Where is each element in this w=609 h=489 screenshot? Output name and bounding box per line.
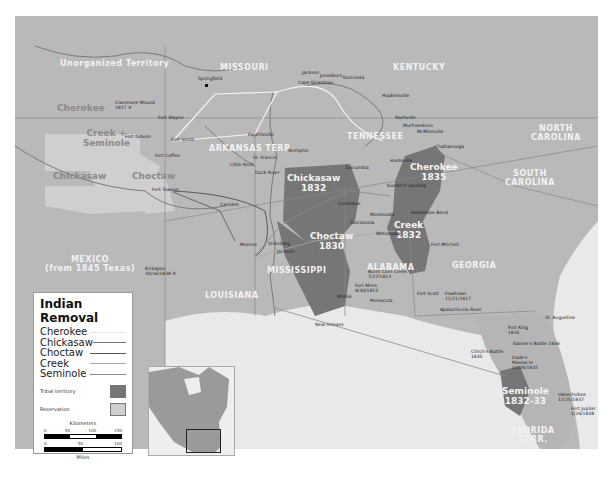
place-fort-gibson: Fort Gibson — [125, 135, 151, 140]
label-mississippi: MISSISSIPPI — [267, 266, 326, 275]
town-marker — [205, 84, 208, 87]
place-nashville: Nashville — [395, 116, 416, 121]
place-little-rock: Little Rock — [230, 163, 254, 168]
label-reservation-choctaw: Choctaw — [132, 171, 175, 181]
place-jackson: Jackson — [302, 71, 319, 76]
place-huntsville: Huntsville — [390, 159, 412, 164]
scale-bar-km: Kilometers 050100150 050100 Miles — [40, 420, 126, 460]
place-apalachicola-river: Apalachicola River — [440, 308, 482, 313]
place-st-francis: St. Francis — [253, 156, 276, 161]
place-fort-smith-ar: Fort Smith — [171, 138, 194, 143]
label-unorganized-territory: Unorganized Territory — [60, 59, 169, 68]
label-territory-seminole: Seminole1832-33 — [502, 386, 549, 407]
label-reservation-chickasaw: Chickasaw — [53, 171, 106, 181]
label-reservation-creek-seminole: Creek +Seminole — [83, 128, 130, 149]
label-kentucky: KENTUCKY — [393, 63, 445, 72]
place-fort-mims: Fort Mims8/30/1813 — [355, 284, 378, 294]
legend: Indian Removal Cherokee Chickasaw Chocta… — [33, 292, 133, 454]
place-fort-scott: Fort Scott — [417, 292, 439, 297]
legend-route-cherokee: Cherokee — [40, 327, 126, 338]
place-cape-girardeau: Cape Girardeau — [298, 81, 333, 86]
locator-extent-box — [186, 429, 221, 453]
place-new-orleans: New Orleans — [315, 323, 344, 328]
place-okeechobee: Okeechobee12/25/1837 — [558, 393, 586, 403]
label-reservation-cherokee: Cherokee — [57, 103, 105, 113]
label-mexico: MEXICO(from 1845 Texas) — [45, 255, 135, 273]
place-fort-coffee: Fort Coffee — [155, 154, 180, 159]
label-florida-terr: FLORIDATERR. — [512, 426, 555, 444]
label-georgia: GEORGIA — [452, 261, 496, 270]
place-clinchs-battle: Clinch's Battle1835 — [471, 350, 503, 360]
place-chattanooga: Chattanooga — [435, 145, 464, 150]
label-south-carolina: SOUTHCAROLINA — [505, 169, 555, 187]
place-springfield: Springfield — [198, 77, 222, 82]
label-tennessee: TENNESSEE — [347, 132, 403, 141]
place-dades-massacre: Dade'sMassacre12/28/1835 — [512, 356, 538, 371]
legend-title: Indian Removal — [40, 297, 126, 325]
place-tuscaloosa: Tuscaloosa — [350, 221, 374, 226]
legend-route-seminole: Seminole — [40, 369, 126, 380]
place-st-augustine: St. Augustine — [545, 316, 575, 321]
place-jonesboro: Jonesboro — [320, 74, 342, 79]
place-gunters-landing: Gunter's Landing — [387, 184, 426, 189]
place-mobile: Mobile — [337, 295, 352, 300]
place-jackson-ms: Jackson — [277, 250, 294, 255]
label-arkansas: ARKANSAS TERR. — [209, 144, 294, 153]
label-north-carolina: NORTHCAROLINA — [531, 124, 581, 142]
label-louisiana: LOUISIANA — [205, 291, 258, 300]
place-vicksburg: Vicksburg — [268, 242, 290, 247]
place-duck-river: Duck River — [255, 171, 280, 176]
place-pensacola: Pensacola — [370, 299, 393, 304]
place-golconda: Golconda — [343, 76, 364, 81]
label-territory-choctaw: Choctaw1830 — [310, 231, 353, 252]
place-monroe: Monroe — [240, 243, 257, 248]
place-tuscumbia: Tuscumbia — [345, 166, 369, 171]
place-fort-mitchell: Fort Mitchell — [431, 243, 459, 248]
label-territory-cherokee: Cherokee1835 — [410, 162, 458, 183]
place-wetumpka: Wetumpka — [376, 232, 400, 237]
place-hopkinsville: Hopkinsville — [382, 94, 409, 99]
locator-inset-map — [148, 366, 235, 456]
place-fort-wayne: Fort Wayne — [158, 116, 183, 121]
legend-tribal-territory: Tribal territory — [40, 385, 126, 398]
place-mcminnville: McMinnville — [417, 130, 443, 135]
place-fort-jupiter: Fort Jupiter1/24/1838 — [571, 407, 596, 417]
place-fort-king: Fort King1835 — [508, 326, 528, 336]
place-fayetteville: Fayetteville — [248, 133, 274, 138]
place-fort-towson: Fort Towson — [152, 188, 179, 193]
legend-route-choctaw: Choctaw — [40, 348, 126, 359]
place-memphis: Memphis — [288, 149, 308, 154]
place-gaines-battle: Gaines's Battle 1836 — [513, 342, 560, 347]
place-camden: Camden — [220, 203, 239, 208]
place-burnt-corn-creek: Burnt Corn Creek7/27/1813 — [368, 270, 407, 280]
label-territory-chickasaw: Chickasaw1832 — [287, 173, 340, 194]
place-fowltown: Fowltown11/21/1817 — [445, 292, 471, 302]
label-missouri: MISSOURI — [220, 63, 269, 72]
place-claremore-mound: Claremore Mound1817 ✕ — [115, 101, 155, 111]
place-texas-battle: Kickapoo10/16/1838 ✕ — [145, 267, 176, 277]
place-montevallo: Montevallo — [370, 213, 395, 218]
place-horseshoe-bend: Horseshoe Bend — [411, 211, 448, 216]
legend-reservation: Reservation — [40, 403, 126, 416]
place-columbus: Columbus — [338, 202, 360, 207]
